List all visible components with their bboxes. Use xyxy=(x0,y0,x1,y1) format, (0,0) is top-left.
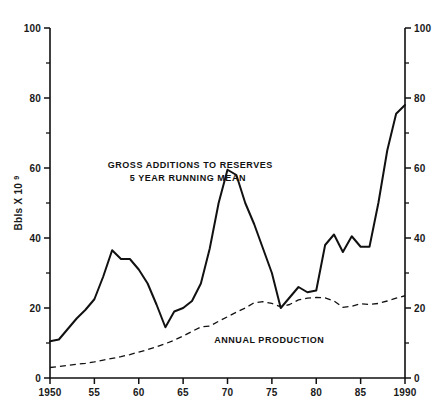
x-axis-label: 60 xyxy=(133,387,145,398)
x-axis-label: 1950 xyxy=(38,387,61,398)
x-axis-label: 65 xyxy=(177,387,189,398)
chart-series xyxy=(50,105,405,368)
y-axis-label-left: 20 xyxy=(29,303,41,314)
gross-additions-label: GROSS ADDITIONS TO RESERVES5 YEAR RUNNIN… xyxy=(108,160,273,183)
y-axis-title-text: Bbls X 10 9 xyxy=(13,175,25,230)
chart-axes xyxy=(44,28,411,384)
x-axis-label: 55 xyxy=(89,387,101,398)
y-axis-title: Bbls X 10 9 xyxy=(13,175,25,230)
y-axis-label-left: 40 xyxy=(29,233,41,244)
gross-additions-label-line-1: GROSS ADDITIONS TO RESERVES xyxy=(108,160,273,170)
y-axis-label-left: 0 xyxy=(35,373,41,384)
x-axis-label: 1990 xyxy=(393,387,416,398)
y-axis-label-right: 100 xyxy=(414,23,432,34)
x-axis-label: 85 xyxy=(355,387,367,398)
y-axis-label-right: 60 xyxy=(414,163,426,174)
x-axis-label: 75 xyxy=(266,387,278,398)
series-line-annual-production xyxy=(50,296,405,368)
gross-additions-label-line-2: 5 YEAR RUNNING MEAN xyxy=(130,173,246,183)
x-axis-label: 70 xyxy=(222,387,234,398)
annual-production-label: ANNUAL PRODUCTION xyxy=(214,335,324,345)
line-chart: 0204060801000204060801001950556065707580… xyxy=(0,0,441,415)
chart-labels: 0204060801000204060801001950556065707580… xyxy=(13,23,432,399)
x-axis-label: 80 xyxy=(310,387,322,398)
y-axis-label-right: 0 xyxy=(414,373,420,384)
y-axis-label-right: 40 xyxy=(414,233,426,244)
y-axis-label-right: 80 xyxy=(414,93,426,104)
y-axis-label-right: 20 xyxy=(414,303,426,314)
y-axis-label-left: 100 xyxy=(24,23,42,34)
axis-frame xyxy=(50,28,405,378)
series-line-gross-additions-to-reserves xyxy=(50,105,405,341)
y-axis-label-left: 80 xyxy=(29,93,41,104)
chart-figure: 0204060801000204060801001950556065707580… xyxy=(0,0,441,415)
annual-production-label-line-1: ANNUAL PRODUCTION xyxy=(214,335,324,345)
y-axis-label-left: 60 xyxy=(29,163,41,174)
